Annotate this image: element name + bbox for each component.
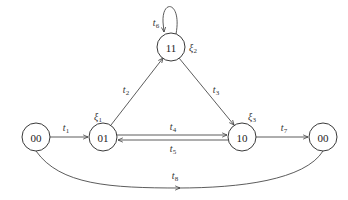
node-11: 11 [157,33,185,61]
svg-text:00: 00 [31,132,43,144]
edge-t2 [111,58,163,125]
label-t7: t7 [281,122,288,135]
annotation-xi2: ξ2 [189,42,197,55]
label-t4: t4 [170,121,177,134]
edge-t3 [179,58,234,125]
svg-text:00: 00 [318,132,330,144]
edge-t8 [36,151,180,188]
annotation-xi1: ξ1 [94,111,102,124]
node-10: 10 [228,123,256,151]
label-t6: t6 [153,17,160,30]
svg-text:10: 10 [237,132,249,144]
node-00-right: 00 [309,123,337,151]
state-transition-diagram: t1 t2 t3 t4 t5 t6 t7 t8 00 01 11 10 00 ξ… [0,0,348,200]
label-t5: t5 [170,143,177,156]
label-t8: t8 [172,170,179,183]
node-01: 01 [89,123,117,151]
label-t1: t1 [63,122,70,135]
node-00-left: 00 [22,123,50,151]
annotation-xi3: ξ3 [248,111,256,124]
svg-text:01: 01 [98,132,109,144]
edge-t6 [163,7,177,34]
label-t3: t3 [213,84,220,97]
svg-text:11: 11 [166,42,177,54]
edge-t8-tail [178,151,323,188]
label-t2: t2 [123,84,130,97]
